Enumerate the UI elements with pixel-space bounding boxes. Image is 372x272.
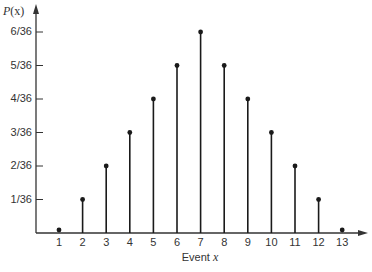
x-tick-label: 11 [285,237,305,248]
x-axis-title-text: Event [182,251,213,263]
x-axis-title-var: x [213,250,218,264]
data-point-dot [340,228,345,233]
data-point-dot [269,130,274,135]
data-point-dot [245,97,250,102]
data-point-dot [198,30,203,35]
y-tick-label: 4/36 [2,93,32,104]
x-axis-title: Event x [170,251,230,263]
x-tick-label: 3 [96,237,116,248]
y-tick-label: 5/36 [2,60,32,71]
y-axis-arrow-icon [33,4,39,14]
probability-stem-chart: P(x) Event x 1/362/363/364/365/366/36 12… [0,0,372,272]
x-tick-label: 2 [73,237,93,248]
data-point-dot [175,63,180,68]
data-point-dot [127,130,132,135]
x-tick-label: 13 [332,237,352,248]
data-point-dot [57,228,62,233]
y-tick-label: 1/36 [2,194,32,205]
data-point-dot [222,63,227,68]
y-tick-label: 3/36 [2,127,32,138]
y-axis-title-arg: (x) [10,4,24,18]
x-axis-arrow-icon [358,230,368,236]
y-tick-label: 2/36 [2,160,32,171]
x-tick-label: 7 [191,237,211,248]
x-tick-label: 12 [309,237,329,248]
x-tick-label: 5 [143,237,163,248]
data-point-dot [80,197,85,202]
data-point-dot [316,197,321,202]
plot-area [0,0,372,272]
x-tick-label: 8 [214,237,234,248]
y-axis-title: P(x) [3,5,24,17]
x-tick-label: 4 [120,237,140,248]
x-tick-label: 10 [261,237,281,248]
x-tick-label: 6 [167,237,187,248]
data-point-dot [151,97,156,102]
x-tick-label: 9 [238,237,258,248]
data-point-dot [104,164,109,169]
y-tick-label: 6/36 [2,26,32,37]
x-tick-label: 1 [49,237,69,248]
data-point-dot [293,164,298,169]
